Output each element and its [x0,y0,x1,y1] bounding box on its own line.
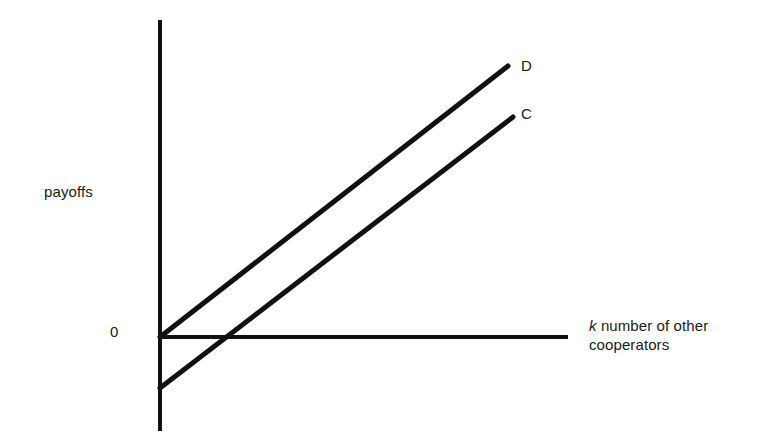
payoff-chart-figure: payoffs 0 D C k number of othercooperato… [0,0,768,446]
series-line-c [160,117,513,388]
series-label-d: D [521,56,532,75]
x-axis-variable-k: k [589,317,597,334]
series-label-c: C [521,104,532,123]
series-line-d [160,66,508,337]
origin-label: 0 [110,322,118,341]
y-axis-label: payoffs [44,182,93,201]
chart-plot-area [0,0,768,446]
x-axis-label-line1: number of other [597,317,709,334]
x-axis-label-line2: cooperators [589,336,669,353]
x-axis-label: k number of othercooperators [589,316,764,354]
